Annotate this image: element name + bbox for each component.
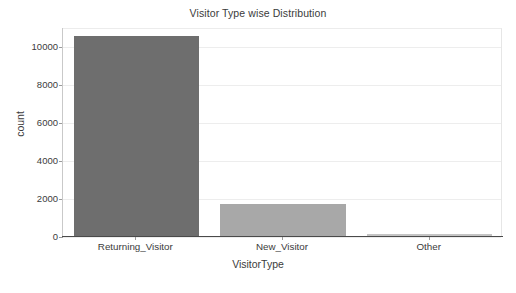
bar-returning-visitor[interactable] — [74, 36, 199, 236]
y-tick-mark — [59, 237, 63, 238]
y-axis-spine — [62, 28, 63, 237]
x-tick-mark — [135, 237, 136, 240]
x-tick-mark — [282, 237, 283, 240]
x-axis-title: VisitorType — [0, 258, 516, 270]
x-tick-label: New_Visitor — [256, 241, 308, 252]
y-axis-title: count — [14, 94, 26, 154]
bar-new-visitor[interactable] — [220, 204, 345, 236]
plot-area — [62, 28, 502, 236]
y-tick-label: 10000 — [10, 41, 58, 52]
x-tick-label: Returning_Visitor — [98, 241, 173, 252]
y-tick-label: 2000 — [10, 193, 58, 204]
y-tick-label: 0 — [10, 231, 58, 242]
chart-title: Visitor Type wise Distribution — [0, 7, 516, 19]
x-tick-mark — [429, 237, 430, 240]
x-tick-label: Other — [416, 241, 441, 252]
y-tick-label: 4000 — [10, 155, 58, 166]
chart-figure: Visitor Type wise Distribution 020004000… — [0, 0, 516, 293]
y-tick-label: 8000 — [10, 79, 58, 90]
